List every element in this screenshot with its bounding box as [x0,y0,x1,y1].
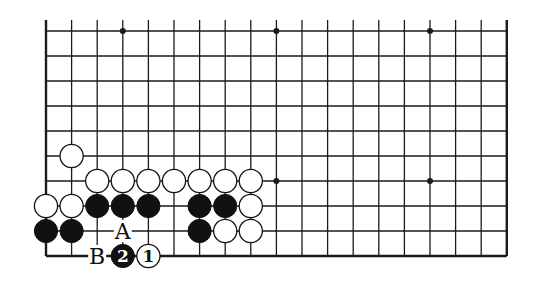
black-stone [214,194,237,217]
white-stone [60,194,83,217]
star-point-icon [273,178,279,184]
black-stone [60,219,83,242]
star-point-icon [273,28,279,34]
move-number-label: 1 [142,246,154,266]
go-board-diagram: 21 AB [0,0,538,290]
star-point-icon [427,178,433,184]
point-letter-label: B [89,244,105,269]
white-stone [162,169,185,192]
point-letter-label: A [114,219,132,244]
star-point-icon [427,28,433,34]
white-stone [239,169,262,192]
black-stone [188,219,211,242]
black-stone [137,194,160,217]
black-stone [34,219,57,242]
white-stone [60,144,83,167]
white-stone [188,169,211,192]
black-stone [111,194,134,217]
black-stone [188,194,211,217]
white-stone [214,219,237,242]
white-stone [214,169,237,192]
white-stone [239,194,262,217]
black-stone [86,194,109,217]
white-stone [239,219,262,242]
move-number-label: 2 [117,246,129,266]
white-stone [137,169,160,192]
white-stone [111,169,134,192]
star-point-icon [120,28,126,34]
white-stone [86,169,109,192]
white-stone [34,194,57,217]
